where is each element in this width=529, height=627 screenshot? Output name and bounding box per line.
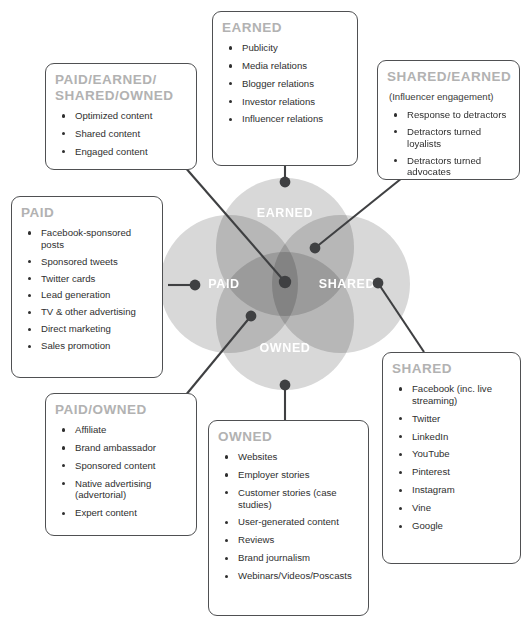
callout-heading: OWNED	[218, 429, 359, 445]
callout-heading: PAID/EARNED/ SHARED/OWNED	[55, 72, 187, 104]
callout-list: Facebook-sponsored posts Sponsored tweet…	[21, 227, 153, 352]
list-item: Lead generation	[21, 289, 153, 301]
callout-shared[interactable]: SHARED Facebook (inc. live streaming) Tw…	[382, 352, 521, 564]
list-item: YouTube	[392, 448, 511, 460]
list-item: Twitter cards	[21, 273, 153, 285]
list-item: Native advertising (advertorial)	[55, 478, 187, 502]
list-item: Expert content	[55, 507, 187, 519]
connector-shared-earned	[315, 178, 402, 248]
list-item: Webinars/Videos/Poscasts	[218, 570, 359, 582]
list-item: Media relations	[222, 60, 348, 72]
callout-heading: SHARED	[392, 361, 511, 377]
callout-paid-owned[interactable]: PAID/OWNED Affiliate Brand ambassador Sp…	[45, 393, 197, 536]
list-item: Influencer relations	[222, 113, 348, 125]
list-item: Publicity	[222, 42, 348, 54]
list-item: Investor relations	[222, 96, 348, 108]
list-item: Sponsored content	[55, 460, 187, 472]
list-item: Google	[392, 520, 511, 532]
callout-heading: PAID/OWNED	[55, 402, 187, 418]
list-item: Reviews	[218, 534, 359, 546]
callout-heading: SHARED/EARNED	[387, 69, 510, 85]
list-item: Optimized content	[55, 110, 187, 122]
list-item: Sales promotion	[21, 340, 153, 352]
list-item: Websites	[218, 451, 359, 463]
hub-dot-shared-earned	[310, 243, 321, 254]
hub-dot-shared	[373, 278, 384, 289]
connector-all-four	[184, 166, 285, 282]
callout-paid-earned-shared-owned[interactable]: PAID/EARNED/ SHARED/OWNED Optimized cont…	[45, 63, 197, 170]
list-item: Brand journalism	[218, 552, 359, 564]
callout-shared-earned[interactable]: SHARED/EARNED (Influencer engagement) Re…	[377, 60, 520, 180]
list-item: Shared content	[55, 128, 187, 140]
callout-list: Response to detractors Detractors turned…	[387, 109, 510, 178]
hub-dot-paid-owned	[246, 311, 257, 322]
connector-paid-owned	[185, 316, 251, 396]
list-item: Blogger relations	[222, 78, 348, 90]
callout-earned[interactable]: EARNED Publicity Media relations Blogger…	[212, 11, 358, 166]
callout-list: Affiliate Brand ambassador Sponsored con…	[55, 424, 187, 519]
list-item: Engaged content	[55, 146, 187, 158]
list-item: User-generated content	[218, 516, 359, 528]
callout-heading: PAID	[21, 205, 153, 221]
hub-dot-owned	[280, 380, 291, 391]
list-item: LinkedIn	[392, 431, 511, 443]
callout-subtitle: (Influencer engagement)	[389, 91, 510, 103]
list-item: Vine	[392, 502, 511, 514]
list-item: Detractors turned advocates	[387, 155, 510, 179]
list-item: Response to detractors	[387, 109, 510, 121]
list-item: Sponsored tweets	[21, 256, 153, 268]
diagram-canvas: EARNED PAID SHARED OWNED	[0, 0, 529, 627]
list-item: Instagram	[392, 484, 511, 496]
list-item: TV & other advertising	[21, 306, 153, 318]
list-item: Customer stories (case studies)	[218, 487, 359, 511]
list-item: Pinterest	[392, 466, 511, 478]
callout-list: Facebook (inc. live streaming) Twitter L…	[392, 383, 511, 532]
callout-heading: EARNED	[222, 20, 348, 36]
callout-list: Optimized content Shared content Engaged…	[55, 110, 187, 158]
heading-line-1: PAID/EARNED/	[55, 72, 157, 87]
list-item: Affiliate	[55, 424, 187, 436]
callout-paid[interactable]: PAID Facebook-sponsored posts Sponsored …	[11, 196, 163, 378]
hub-dot-center	[279, 276, 291, 288]
connector-dots	[190, 177, 384, 391]
heading-line-2: SHARED/OWNED	[55, 88, 174, 103]
list-item: Direct marketing	[21, 323, 153, 335]
list-item: Employer stories	[218, 469, 359, 481]
list-item: Twitter	[392, 413, 511, 425]
hub-dot-earned	[280, 177, 291, 188]
list-item: Facebook (inc. live streaming)	[392, 383, 511, 407]
callout-owned[interactable]: OWNED Websites Employer stories Customer…	[208, 420, 369, 616]
list-item: Detractors turned loyalists	[387, 126, 510, 150]
callout-list: Websites Employer stories Customer stori…	[218, 451, 359, 582]
connector-shared	[378, 283, 424, 352]
callout-list: Publicity Media relations Blogger relati…	[222, 42, 348, 125]
list-item: Brand ambassador	[55, 442, 187, 454]
list-item: Facebook-sponsored posts	[21, 227, 153, 251]
hub-dot-paid	[190, 280, 201, 291]
